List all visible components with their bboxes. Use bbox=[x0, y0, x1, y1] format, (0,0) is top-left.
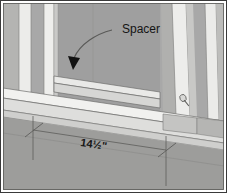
spacer-label: Spacer bbox=[122, 22, 160, 36]
illustration-figure: 14½" Spacer bbox=[0, 0, 227, 193]
framing-illustration-svg: 14½" Spacer bbox=[0, 0, 227, 193]
left-inner-stud bbox=[44, 3, 54, 106]
